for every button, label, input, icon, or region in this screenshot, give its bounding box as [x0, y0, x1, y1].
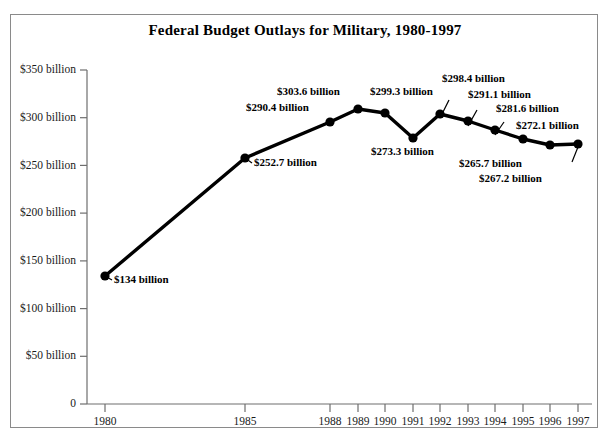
data-label-1992: $298.4 billion — [442, 72, 505, 84]
ytick-label-150: $150 billion — [0, 254, 76, 266]
data-label-1994: $281.6 billion — [496, 102, 559, 114]
data-point-1995 — [518, 134, 527, 143]
data-label-1991: $273.3 billion — [371, 145, 434, 157]
data-point-1992 — [435, 109, 444, 118]
leader-line-1997 — [572, 147, 578, 162]
data-label-1985: $252.7 billion — [254, 156, 317, 168]
data-point-1989 — [353, 104, 362, 113]
data-point-1997 — [573, 139, 582, 148]
data-label-1988: $290.4 billion — [246, 101, 309, 113]
ytick-label-250: $250 billion — [0, 159, 76, 171]
ytick-label-200: $200 billion — [0, 206, 76, 218]
xtick-label-1980: 1980 — [80, 415, 130, 427]
ytick-label-100: $100 billion — [0, 302, 76, 314]
data-point-1994 — [490, 125, 499, 134]
data-label-1995: $272.1 billion — [516, 119, 579, 131]
ytick-label-350: $350 billion — [0, 63, 76, 75]
chart-screenshot: Federal Budget Outlays for Military, 198… — [0, 0, 610, 441]
series-line — [105, 109, 578, 276]
y-axis-ticks — [80, 70, 87, 404]
data-point-1980 — [100, 271, 109, 280]
label-leader-lines — [105, 100, 578, 280]
data-point-1996 — [545, 140, 554, 149]
data-point-1990 — [380, 108, 389, 117]
xtick-label-1985: 1985 — [220, 415, 270, 427]
data-label-1990: $299.3 billion — [370, 85, 433, 97]
ytick-label-50: $50 billion — [0, 349, 76, 361]
data-label-1997: $267.2 billion — [479, 172, 542, 184]
ytick-label-0: 0 — [0, 397, 76, 409]
data-label-1989: $303.6 billion — [277, 85, 340, 97]
data-point-1991 — [408, 133, 417, 142]
data-label-1980: $134 billion — [114, 273, 169, 285]
x-axis-ticks — [105, 404, 578, 412]
data-point-1993 — [463, 116, 472, 125]
plot-area — [0, 0, 610, 441]
series-markers — [100, 104, 582, 280]
data-point-1988 — [325, 117, 334, 126]
data-label-1993: $291.1 billion — [468, 88, 531, 100]
data-point-1985 — [240, 153, 249, 162]
xtick-label-1997: 1997 — [554, 415, 602, 427]
data-label-1996: $265.7 billion — [459, 157, 522, 169]
ytick-label-300: $300 billion — [0, 111, 76, 123]
